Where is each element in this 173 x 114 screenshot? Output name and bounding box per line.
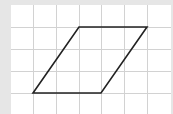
grid-diagram xyxy=(0,0,173,114)
parallelogram-figure xyxy=(0,0,173,114)
